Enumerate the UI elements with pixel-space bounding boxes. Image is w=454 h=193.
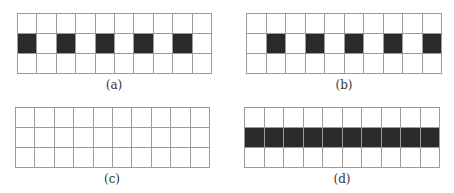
empty-cell — [74, 128, 93, 148]
empty-cell — [152, 108, 171, 128]
filled-cell — [423, 34, 443, 54]
empty-cell — [115, 34, 134, 54]
empty-cell — [193, 54, 212, 74]
empty-cell — [76, 54, 95, 74]
empty-cell — [323, 108, 343, 128]
empty-cell — [421, 108, 441, 128]
grid-b — [246, 13, 442, 74]
empty-cell — [193, 34, 212, 54]
empty-cell — [247, 14, 267, 34]
empty-cell — [94, 148, 113, 168]
grid-c — [15, 107, 210, 168]
empty-cell — [35, 128, 54, 148]
empty-cell — [55, 108, 74, 128]
empty-cell — [18, 54, 37, 74]
filled-cell — [306, 34, 326, 54]
filled-cell — [401, 128, 421, 148]
empty-cell — [247, 54, 267, 74]
empty-cell — [171, 148, 190, 168]
empty-cell — [55, 148, 74, 168]
empty-cell — [247, 34, 267, 54]
empty-cell — [382, 148, 402, 168]
empty-cell — [306, 14, 326, 34]
empty-cell — [325, 34, 345, 54]
filled-cell — [18, 34, 37, 54]
empty-cell — [345, 54, 365, 74]
empty-cell — [37, 14, 56, 34]
empty-cell — [55, 128, 74, 148]
caption-a: (a) — [94, 78, 134, 92]
empty-cell — [306, 54, 326, 74]
empty-cell — [132, 148, 151, 168]
empty-cell — [323, 148, 343, 168]
empty-cell — [421, 148, 441, 168]
empty-cell — [401, 148, 421, 168]
empty-cell — [134, 54, 153, 74]
filled-cell — [245, 128, 265, 148]
empty-cell — [345, 14, 365, 34]
empty-cell — [171, 128, 190, 148]
empty-cell — [35, 148, 54, 168]
empty-cell — [113, 148, 132, 168]
empty-cell — [94, 128, 113, 148]
grid-a — [17, 13, 212, 74]
empty-cell — [265, 148, 285, 168]
empty-cell — [384, 14, 404, 34]
empty-cell — [115, 14, 134, 34]
empty-cell — [152, 128, 171, 148]
empty-cell — [343, 148, 363, 168]
empty-cell — [134, 14, 153, 34]
empty-cell — [304, 148, 324, 168]
empty-cell — [245, 148, 265, 168]
empty-cell — [325, 14, 345, 34]
caption-d: (d) — [322, 172, 362, 186]
empty-cell — [191, 128, 210, 148]
empty-cell — [74, 148, 93, 168]
empty-cell — [173, 14, 192, 34]
filled-cell — [382, 128, 402, 148]
empty-cell — [154, 34, 173, 54]
empty-cell — [284, 148, 304, 168]
grid-d — [244, 107, 440, 168]
empty-cell — [113, 128, 132, 148]
empty-cell — [171, 108, 190, 128]
filled-cell — [134, 34, 153, 54]
empty-cell — [16, 148, 35, 168]
empty-cell — [76, 34, 95, 54]
empty-cell — [401, 108, 421, 128]
empty-cell — [384, 54, 404, 74]
filled-cell — [284, 128, 304, 148]
empty-cell — [267, 54, 287, 74]
filled-cell — [304, 128, 324, 148]
empty-cell — [343, 108, 363, 128]
empty-cell — [423, 14, 443, 34]
filled-cell — [57, 34, 76, 54]
filled-cell — [343, 128, 363, 148]
empty-cell — [96, 54, 115, 74]
caption-c: (c) — [92, 172, 132, 186]
caption-b: (b) — [324, 78, 364, 92]
empty-cell — [286, 14, 306, 34]
filled-cell — [345, 34, 365, 54]
filled-cell — [173, 34, 192, 54]
empty-cell — [132, 108, 151, 128]
empty-cell — [403, 54, 423, 74]
empty-cell — [191, 108, 210, 128]
filled-cell — [96, 34, 115, 54]
empty-cell — [115, 54, 134, 74]
empty-cell — [265, 108, 285, 128]
empty-cell — [364, 14, 384, 34]
empty-cell — [132, 128, 151, 148]
empty-cell — [152, 148, 171, 168]
empty-cell — [423, 54, 443, 74]
filled-cell — [265, 128, 285, 148]
filled-cell — [267, 34, 287, 54]
empty-cell — [245, 108, 265, 128]
empty-cell — [16, 108, 35, 128]
empty-cell — [57, 14, 76, 34]
empty-cell — [16, 128, 35, 148]
empty-cell — [304, 108, 324, 128]
empty-cell — [403, 14, 423, 34]
filled-cell — [323, 128, 343, 148]
empty-cell — [267, 14, 287, 34]
